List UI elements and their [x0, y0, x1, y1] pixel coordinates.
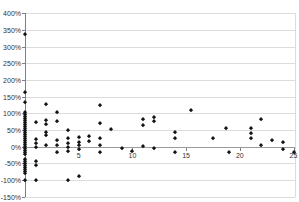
x-axis-tick — [186, 148, 187, 151]
data-point-marker — [66, 149, 70, 153]
data-point-marker — [281, 140, 285, 144]
x-axis-label: 5 — [72, 152, 86, 159]
y-axis-label: 150% — [0, 94, 21, 101]
gridline — [25, 197, 295, 198]
chart-title-fragment: j... — [126, 0, 174, 5]
data-point-marker — [34, 145, 38, 149]
data-point-marker — [120, 146, 124, 150]
data-point-marker — [249, 136, 253, 140]
y-axis-label: 50% — [0, 127, 21, 134]
gridline — [25, 13, 295, 14]
x-axis-label: 20 — [233, 152, 247, 159]
plot-right-border — [295, 13, 296, 196]
gridline — [25, 30, 295, 31]
data-point-marker — [23, 90, 27, 94]
x-axis-label: 10 — [125, 152, 139, 159]
data-point-marker — [23, 100, 27, 104]
data-point-marker — [23, 32, 27, 36]
data-point-marker — [98, 136, 102, 140]
data-point-marker — [227, 150, 231, 154]
y-axis-label: 250% — [0, 60, 21, 67]
gridline — [25, 163, 295, 164]
data-point-marker — [66, 128, 70, 132]
gridline — [25, 97, 295, 98]
data-point-marker — [55, 119, 59, 123]
x-axis-label: 15 — [179, 152, 193, 159]
data-point-marker — [141, 117, 145, 121]
data-point-marker — [23, 152, 27, 156]
data-point-marker — [55, 150, 59, 154]
data-point-marker — [87, 134, 91, 138]
data-point-marker — [44, 122, 48, 126]
data-point-marker — [34, 120, 38, 124]
gridline — [25, 47, 295, 48]
data-point-marker — [44, 102, 48, 106]
data-point-marker — [55, 138, 59, 142]
gridline — [25, 63, 295, 64]
y-axis-label: -150% — [0, 194, 21, 201]
data-point-marker — [173, 136, 177, 140]
data-point-marker — [270, 138, 274, 142]
data-point-marker — [152, 146, 156, 150]
data-point-marker — [259, 117, 263, 121]
y-axis-label: 350% — [0, 27, 21, 34]
y-axis-label: 0% — [0, 144, 21, 151]
y-axis-label: -50% — [0, 160, 21, 167]
data-point-marker — [173, 150, 177, 154]
data-point-marker — [189, 108, 193, 112]
data-point-marker — [98, 150, 102, 154]
data-point-marker — [34, 163, 38, 167]
data-point-marker — [77, 174, 81, 178]
x-axis-tick — [240, 148, 241, 151]
data-point-marker — [87, 139, 91, 143]
data-point-marker — [211, 136, 215, 140]
data-point-marker — [141, 123, 145, 127]
scatter-chart: j... 400%350%300%250%200%150%100%50%0%-5… — [0, 0, 299, 202]
data-point-marker — [23, 178, 27, 182]
y-axis-label: 400% — [0, 10, 21, 17]
data-point-marker — [44, 133, 48, 137]
y-axis-label: 200% — [0, 77, 21, 84]
data-point-marker — [152, 119, 156, 123]
data-point-marker — [34, 178, 38, 182]
data-point-marker — [281, 147, 285, 151]
y-axis-label: 100% — [0, 110, 21, 117]
gridline — [25, 80, 295, 81]
y-axis-label: 300% — [0, 44, 21, 51]
data-point-marker — [66, 178, 70, 182]
data-point-marker — [98, 121, 102, 125]
y-axis-tick — [22, 197, 25, 198]
data-point-marker — [98, 103, 102, 107]
data-point-marker — [66, 136, 70, 140]
chart-title-text: j... — [144, 3, 156, 5]
y-axis-label: -100% — [0, 177, 21, 184]
gridline — [25, 113, 295, 114]
data-point-marker — [292, 150, 296, 154]
data-point-marker — [77, 135, 81, 139]
